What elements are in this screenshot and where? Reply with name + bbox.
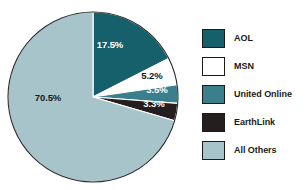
- legend-item-label: United Online: [234, 89, 292, 99]
- legend-swatch: [202, 85, 225, 104]
- legend-item[interactable]: United Online: [202, 80, 306, 108]
- pie-slice-value-label: 3.3%: [143, 98, 165, 109]
- legend-swatch: [202, 29, 225, 48]
- legend-item-label: AOL: [234, 33, 253, 43]
- pie-slice-value-label: 5.2%: [141, 70, 163, 81]
- legend-item[interactable]: AOL: [202, 24, 306, 52]
- legend-item[interactable]: MSN: [202, 52, 306, 80]
- legend-swatch: [202, 113, 225, 132]
- legend-item-label: All Others: [234, 145, 277, 155]
- legend-item-label: EarthLink: [234, 117, 275, 127]
- legend-swatch: [202, 141, 225, 160]
- legend-item-label: MSN: [234, 61, 254, 71]
- pie-svg: 17.5%5.2%3.5%3.3%70.5%: [0, 0, 195, 190]
- pie-chart-figure: 17.5%5.2%3.5%3.3%70.5% AOLMSNUnited Onli…: [0, 0, 308, 190]
- chart-legend: AOLMSNUnited OnlineEarthLinkAll Others: [202, 24, 306, 164]
- pie-slice-value-label: 70.5%: [35, 92, 62, 103]
- legend-swatch: [202, 57, 225, 76]
- pie-slice-value-label: 17.5%: [97, 39, 124, 50]
- legend-item[interactable]: All Others: [202, 136, 306, 164]
- pie-slice-value-label: 3.5%: [146, 84, 168, 95]
- pie-plot-area: 17.5%5.2%3.5%3.3%70.5%: [0, 0, 195, 190]
- legend-item[interactable]: EarthLink: [202, 108, 306, 136]
